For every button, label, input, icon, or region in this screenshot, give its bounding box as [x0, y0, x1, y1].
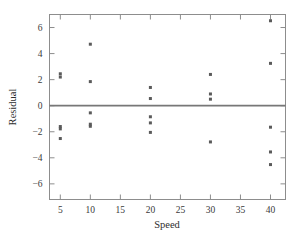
y-tick-label: 0 [38, 101, 43, 111]
x-tick-label: 20 [146, 205, 156, 215]
y-axis-title: Residual [7, 89, 18, 126]
data-point [209, 140, 212, 143]
residual-plot-figure: 6420−2−4−6 510152025303540 Speed Residua… [0, 0, 302, 237]
data-point [209, 73, 212, 76]
data-point [269, 150, 272, 153]
y-tick-label: −2 [32, 127, 42, 137]
y-tick-label: 6 [38, 23, 43, 33]
x-tick-label: 25 [176, 205, 186, 215]
y-tick-label: −4 [32, 153, 42, 163]
x-tick-label: 30 [206, 205, 216, 215]
figure-background [0, 0, 302, 237]
y-tick-label: 2 [38, 75, 43, 85]
data-point [269, 62, 272, 65]
x-axis-title: Speed [154, 219, 180, 230]
data-point [269, 126, 272, 129]
x-tick-label: 35 [236, 205, 246, 215]
data-point [89, 125, 92, 128]
data-point [149, 86, 152, 89]
data-point [89, 111, 92, 114]
x-tick-label: 5 [58, 205, 63, 215]
data-point [269, 19, 272, 22]
x-tick-label: 15 [116, 205, 126, 215]
data-point [59, 76, 62, 79]
data-point [59, 72, 62, 75]
data-point [59, 127, 62, 130]
y-tick-label: 4 [38, 49, 43, 59]
data-point [149, 121, 152, 124]
data-point [149, 131, 152, 134]
data-point [89, 43, 92, 46]
data-point [149, 97, 152, 100]
data-point [209, 98, 212, 101]
x-tick-label: 10 [86, 205, 96, 215]
data-point [269, 163, 272, 166]
scatter-plot-canvas: 6420−2−4−6 510152025303540 Speed Residua… [0, 0, 302, 237]
data-point [59, 137, 62, 140]
data-point [209, 92, 212, 95]
y-tick-label: −6 [32, 179, 42, 189]
data-point [149, 115, 152, 118]
x-tick-label: 40 [266, 205, 276, 215]
data-point [89, 80, 92, 83]
